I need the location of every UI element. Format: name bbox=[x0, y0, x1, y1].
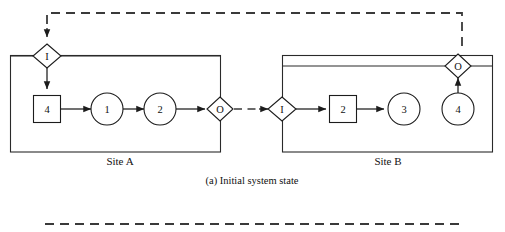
site-a-node-4: 4 bbox=[34, 96, 61, 123]
site-b-node-2-label: 2 bbox=[340, 104, 345, 115]
site-a-name-label: Site A bbox=[106, 155, 133, 167]
site-b-node-2: 2 bbox=[330, 96, 357, 123]
site-a-input-port: I bbox=[33, 44, 61, 68]
site-b-node-3-label: 3 bbox=[401, 104, 406, 115]
site-b-name-label: Site B bbox=[374, 155, 401, 167]
global-dashed-feedback-top bbox=[47, 13, 462, 46]
site-b-node-4-label: 4 bbox=[455, 104, 461, 115]
dashed-feedback-path bbox=[47, 13, 462, 46]
site-b-output-port-label: O bbox=[454, 61, 462, 72]
site-a-output-port: O bbox=[207, 97, 233, 121]
figure-caption: (a) Initial system state bbox=[205, 175, 298, 187]
site-b-group: I 2 3 4 O Site B bbox=[268, 54, 493, 167]
site-b-node-3: 3 bbox=[388, 93, 420, 125]
site-b-input-port-label: I bbox=[280, 104, 284, 115]
system-state-diagram: I 4 1 2 O Site A bbox=[0, 0, 505, 232]
site-a-node-2: 2 bbox=[144, 93, 176, 125]
site-a-node-4-label: 4 bbox=[44, 104, 50, 115]
site-a-input-port-label: I bbox=[45, 51, 49, 62]
figure-container: I 4 1 2 O Site A bbox=[0, 0, 505, 232]
site-a-node-2-label: 2 bbox=[157, 104, 162, 115]
site-a-node-1: 1 bbox=[91, 93, 123, 125]
site-b-output-port: O bbox=[445, 54, 471, 78]
site-b-node-4: 4 bbox=[442, 93, 474, 125]
site-b-input-port: I bbox=[268, 97, 296, 121]
site-a-node-1-label: 1 bbox=[104, 104, 109, 115]
site-a-output-port-label: O bbox=[216, 104, 224, 115]
site-a-group: I 4 1 2 O Site A bbox=[11, 44, 234, 167]
